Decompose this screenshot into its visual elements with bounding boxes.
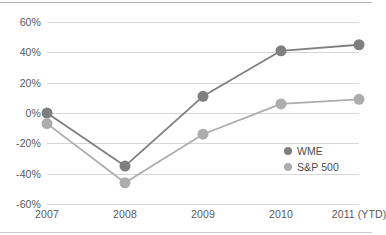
legend-label-sp500: S&P 500 xyxy=(297,161,339,173)
legend-item-wme[interactable]: WME xyxy=(284,144,339,158)
y-axis-tick-label: -20% xyxy=(16,137,41,149)
y-axis-tick-label: -40% xyxy=(16,168,41,180)
x-axis-tick-label: 2011 (YTD) xyxy=(332,208,386,220)
data-point-s-p-500[interactable] xyxy=(276,98,287,109)
y-axis-tick-label: 20% xyxy=(20,77,41,89)
y-axis-tick-label: 0% xyxy=(26,107,41,119)
legend-swatch-sp500 xyxy=(284,163,292,171)
x-axis-tick-label: 2010 xyxy=(269,208,293,220)
x-axis-tick-label: 2009 xyxy=(191,208,215,220)
data-point-wme[interactable] xyxy=(42,108,53,119)
series-layer xyxy=(47,22,359,204)
data-point-s-p-500[interactable] xyxy=(42,118,53,129)
y-axis-tick-label: 60% xyxy=(20,16,41,28)
chart-legend: WME S&P 500 xyxy=(284,144,339,174)
chart-bottom-rule xyxy=(0,232,372,233)
plot-area: 60%40%20%0%-20%-40%-60% 2007200820092010… xyxy=(47,22,359,204)
data-point-s-p-500[interactable] xyxy=(120,177,131,188)
legend-swatch-wme xyxy=(284,147,292,155)
legend-label-wme: WME xyxy=(297,145,323,157)
y-axis-tick-label: 40% xyxy=(20,46,41,58)
x-axis-tick-label: 2007 xyxy=(35,208,59,220)
data-point-wme[interactable] xyxy=(198,91,209,102)
data-point-wme[interactable] xyxy=(276,45,287,56)
gridline xyxy=(47,204,359,205)
data-point-s-p-500[interactable] xyxy=(354,94,365,105)
x-axis-tick-label: 2008 xyxy=(113,208,137,220)
chart-top-rule xyxy=(0,2,372,3)
data-point-wme[interactable] xyxy=(354,39,365,50)
data-point-s-p-500[interactable] xyxy=(198,129,209,140)
data-point-wme[interactable] xyxy=(120,161,131,172)
legend-item-sp500[interactable]: S&P 500 xyxy=(284,160,339,174)
